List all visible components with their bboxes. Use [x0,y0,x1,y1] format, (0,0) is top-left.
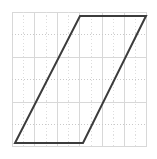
grid-and-shape-svg [0,0,157,159]
figure-canvas [0,0,157,159]
grid-layer [12,12,147,147]
